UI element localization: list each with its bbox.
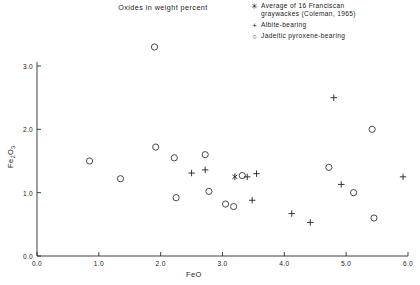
data-point bbox=[371, 215, 377, 221]
series-circle bbox=[86, 44, 377, 221]
data-point bbox=[188, 170, 194, 176]
x-tick-label: 3.0 bbox=[217, 260, 227, 267]
data-point bbox=[249, 197, 255, 203]
x-axis-label: FeO bbox=[186, 270, 202, 279]
data-point bbox=[307, 219, 313, 225]
x-tick-label: 1.0 bbox=[94, 260, 104, 267]
data-point bbox=[117, 176, 123, 182]
data-point bbox=[151, 44, 157, 50]
y-tick-label: 0.0 bbox=[13, 253, 33, 260]
x-tick-label: 0.0 bbox=[32, 260, 42, 267]
y-tick-label: 2.0 bbox=[13, 126, 33, 133]
data-point bbox=[326, 164, 332, 170]
data-point bbox=[171, 155, 177, 161]
x-tick-label: 4.0 bbox=[279, 260, 289, 267]
data-point bbox=[350, 190, 356, 196]
data-point bbox=[369, 126, 375, 132]
x-tick-label: 5.0 bbox=[341, 260, 351, 267]
data-point bbox=[86, 158, 92, 164]
x-tick-label: 2.0 bbox=[156, 260, 166, 267]
data-point bbox=[231, 204, 237, 210]
data-point bbox=[202, 167, 208, 173]
data-point bbox=[232, 173, 237, 180]
series-asterisk bbox=[232, 173, 237, 180]
data-point bbox=[222, 201, 228, 207]
data-point bbox=[206, 188, 212, 194]
data-point bbox=[153, 144, 159, 150]
x-tick-label: 6.0 bbox=[403, 260, 413, 267]
data-point bbox=[289, 210, 295, 216]
series-plus bbox=[188, 94, 406, 225]
y-tick-label: 3.0 bbox=[13, 63, 33, 70]
data-point bbox=[400, 174, 406, 180]
data-point bbox=[173, 195, 179, 201]
data-point bbox=[239, 172, 245, 178]
data-point bbox=[331, 94, 337, 100]
y-axis-label: Fe2O3 bbox=[6, 134, 15, 180]
data-point bbox=[338, 181, 344, 187]
data-point bbox=[253, 170, 259, 176]
scatter-plot-figure: Oxides in weight percent ✳ Average of 16… bbox=[0, 0, 420, 285]
y-tick-label: 1.0 bbox=[13, 189, 33, 196]
data-point bbox=[202, 152, 208, 158]
plot-canvas bbox=[0, 0, 420, 285]
